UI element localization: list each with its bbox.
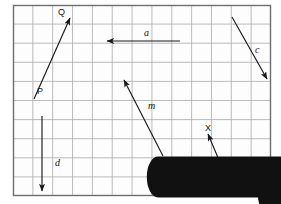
label-W: W xyxy=(233,184,242,193)
vector-label-text-c: c xyxy=(255,44,259,55)
label-X: X xyxy=(205,124,211,133)
label-m: m xyxy=(148,101,155,111)
label-c: c xyxy=(255,45,259,55)
label-d: d xyxy=(55,158,60,168)
label-Q: Q xyxy=(58,8,65,17)
vector-label-a: a xyxy=(144,28,149,38)
diagram-svg xyxy=(0,0,281,204)
vector-diagram-canvas: QPXWacmd xyxy=(0,0,281,204)
vector-label-c: c xyxy=(255,45,259,55)
grid-layer xyxy=(13,5,271,196)
label-P: P xyxy=(37,87,43,96)
vector-label-text-a: a xyxy=(144,27,149,38)
label-a: a xyxy=(144,28,149,38)
